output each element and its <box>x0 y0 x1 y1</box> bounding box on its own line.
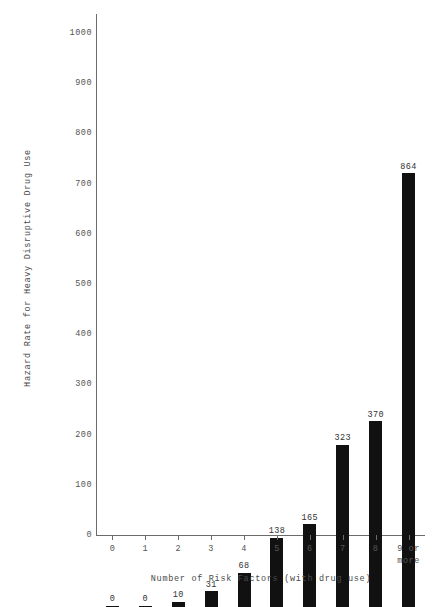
y-tick-label: 700 <box>48 179 92 189</box>
y-tick-label: 1000 <box>48 28 92 38</box>
y-tick-label: 400 <box>48 329 92 339</box>
bar-value-label: 323 <box>334 434 351 443</box>
bar-value-label: 165 <box>302 514 319 523</box>
bar-group[interactable]: 323 <box>325 72 361 607</box>
x-tick-mark <box>310 535 311 540</box>
bar-group[interactable]: 864 <box>391 72 427 607</box>
y-tick-label: 0 <box>48 530 92 540</box>
bar-value-label: 68 <box>239 562 250 571</box>
hazard-rate-bar-chart: Hazard Rate for Heavy Disruptive Drug Us… <box>0 0 436 607</box>
bar-value-label: 10 <box>173 591 184 600</box>
bar[interactable] <box>402 173 415 607</box>
x-tick-label: 9 ormore <box>381 543 436 567</box>
bar[interactable] <box>205 591 218 607</box>
bar-value-label: 370 <box>367 411 384 420</box>
bar-group[interactable]: 370 <box>358 72 394 607</box>
bar-value-label: 864 <box>400 163 417 172</box>
x-tick-mark <box>277 535 278 540</box>
bar-group[interactable]: 68 <box>226 72 262 607</box>
x-tick-mark <box>376 535 377 540</box>
x-tick-mark <box>244 535 245 540</box>
bar-group[interactable]: 0 <box>127 72 163 607</box>
y-tick-label: 100 <box>48 480 92 490</box>
x-tick-mark <box>343 535 344 540</box>
bar-group[interactable]: 31 <box>193 72 229 607</box>
bar-value-label: 0 <box>143 595 149 604</box>
bar[interactable] <box>172 602 185 607</box>
plot-area: 01002003004005006007008009001000 0010316… <box>0 0 436 607</box>
bar-group[interactable]: 0 <box>94 72 130 607</box>
bar-value-label: 0 <box>110 595 116 604</box>
x-tick-mark <box>211 535 212 540</box>
bar-group[interactable]: 165 <box>292 72 328 607</box>
x-tick-mark <box>178 535 179 540</box>
y-tick-label: 200 <box>48 430 92 440</box>
y-tick-label: 900 <box>48 78 92 88</box>
y-tick-label: 300 <box>48 379 92 389</box>
y-tick-label: 600 <box>48 229 92 239</box>
x-tick-mark <box>409 535 410 540</box>
y-tick-label: 500 <box>48 279 92 289</box>
x-tick-mark <box>145 535 146 540</box>
y-tick-label: 800 <box>48 128 92 138</box>
x-tick-mark <box>112 535 113 540</box>
x-axis-title: Number of Risk Factors (with drug use) <box>96 574 426 584</box>
bar-group[interactable]: 10 <box>160 72 196 607</box>
bar-group[interactable]: 138 <box>259 72 295 607</box>
